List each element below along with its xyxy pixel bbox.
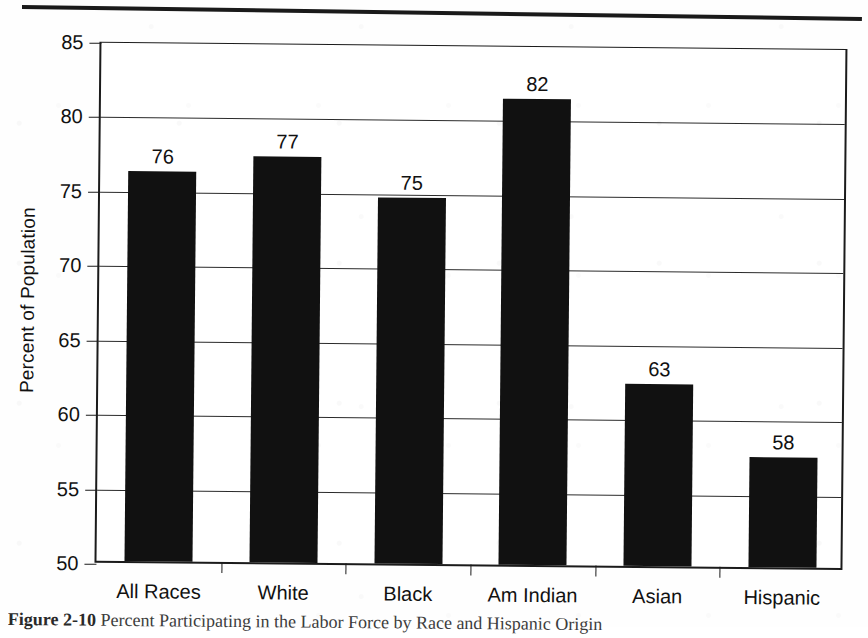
gridline bbox=[100, 192, 844, 200]
y-axis-tick-label: 85 bbox=[61, 31, 83, 54]
figure-caption-text: Percent Participating in the Labor Force… bbox=[100, 610, 602, 634]
bar bbox=[374, 197, 446, 564]
y-axis-tick-label: 70 bbox=[59, 254, 81, 277]
x-axis-tick bbox=[470, 564, 471, 575]
x-axis-category-label: All Races bbox=[116, 580, 201, 604]
bar bbox=[748, 457, 817, 568]
y-axis-tick bbox=[87, 266, 99, 267]
x-axis-tick bbox=[221, 562, 222, 573]
x-axis-category-label: Hispanic bbox=[743, 586, 820, 610]
x-axis-category-label: White bbox=[258, 581, 309, 604]
y-axis-tick bbox=[86, 415, 98, 416]
y-axis-tick bbox=[84, 564, 96, 565]
x-axis-tick bbox=[346, 563, 347, 574]
y-axis-tick-label: 75 bbox=[60, 180, 82, 203]
gridline bbox=[99, 266, 843, 274]
y-axis-tick bbox=[85, 489, 97, 490]
y-axis-tick bbox=[87, 340, 99, 341]
gridline bbox=[99, 340, 843, 348]
x-axis-category-label: Black bbox=[383, 583, 432, 606]
bar bbox=[623, 384, 693, 566]
bar-value-label: 77 bbox=[276, 130, 298, 153]
y-axis-title: Percent of Population bbox=[16, 150, 41, 450]
y-axis-tick-label: 60 bbox=[58, 403, 80, 426]
gridline bbox=[101, 117, 845, 125]
x-axis-category-label: Am Indian bbox=[487, 584, 577, 608]
bar-value-label: 82 bbox=[526, 73, 548, 96]
y-axis-tick-label: 50 bbox=[56, 552, 78, 575]
y-axis-tick bbox=[89, 43, 101, 44]
x-axis-category-label: Asian bbox=[632, 585, 682, 608]
bar-value-label: 75 bbox=[401, 171, 423, 194]
bar bbox=[499, 99, 571, 566]
gridline bbox=[98, 415, 842, 423]
x-axis-tick bbox=[720, 567, 721, 578]
bar bbox=[249, 156, 321, 563]
x-axis-tick bbox=[595, 566, 596, 577]
y-axis-tick-label: 80 bbox=[60, 105, 82, 128]
figure-caption-label: Figure 2-10 bbox=[8, 609, 96, 630]
bar-chart-figure: Percent of Population 505560657075808576… bbox=[0, 0, 868, 634]
y-axis-tick bbox=[88, 192, 100, 193]
bar-value-label: 76 bbox=[151, 145, 173, 168]
bar-value-label: 63 bbox=[648, 358, 670, 381]
y-axis-tick-label: 55 bbox=[57, 477, 79, 500]
y-axis-tick-label: 65 bbox=[58, 329, 80, 352]
bar bbox=[125, 171, 197, 562]
gridline bbox=[97, 489, 841, 497]
y-axis-tick bbox=[89, 117, 101, 118]
bar-value-label: 58 bbox=[772, 431, 794, 454]
plot-area: 505560657075808576All Races77White75Blac… bbox=[94, 42, 847, 570]
